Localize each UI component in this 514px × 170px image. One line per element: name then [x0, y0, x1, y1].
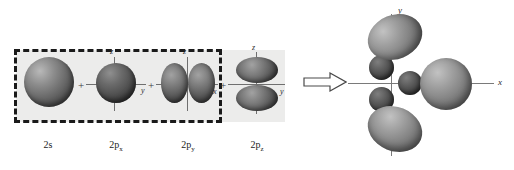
axis-label-z-2pz: z	[252, 44, 255, 52]
hybrid-right-front-lobe	[420, 58, 472, 110]
caption-2py-sub: y	[191, 145, 195, 153]
axis-label-x-hybrid: x	[498, 78, 502, 87]
caption-2pz: 2pz	[236, 140, 278, 153]
caption-2px: 2px	[95, 140, 137, 153]
axis-label-y-2px: y	[141, 87, 145, 95]
axis-label-y-2pz: y	[280, 88, 284, 96]
operator-plus-3: +	[220, 80, 226, 91]
yields-arrow-icon	[303, 72, 347, 92]
operator-plus-1: +	[78, 80, 84, 91]
caption-2pz-main: 2p	[250, 139, 260, 150]
orbital-2py-lobe-right	[188, 63, 215, 103]
caption-2py: 2py	[167, 140, 209, 153]
hybrid-right-back-lobe	[398, 71, 422, 95]
caption-2s: 2s	[27, 140, 69, 150]
orbital-2px-lobe	[96, 63, 136, 103]
orbital-2pz-lobe-bottom	[236, 85, 278, 111]
orbital-2s-sphere	[24, 57, 74, 107]
caption-2px-main: 2p	[109, 139, 119, 150]
diagram-canvas: + z y + z x + z y 2s 2px 2py 2pz	[0, 0, 514, 170]
orbital-2pz-lobe-top	[236, 57, 278, 83]
caption-2pz-sub: z	[260, 145, 263, 153]
operator-plus-2: +	[148, 80, 154, 91]
caption-2py-main: 2p	[181, 139, 191, 150]
axis-label-x-2py: x	[213, 88, 217, 96]
caption-2px-sub: x	[119, 145, 123, 153]
axis-label-z-2py: z	[183, 48, 186, 56]
orbital-2py-lobe-left	[161, 63, 188, 103]
axis-label-z-2px: z	[110, 48, 113, 56]
